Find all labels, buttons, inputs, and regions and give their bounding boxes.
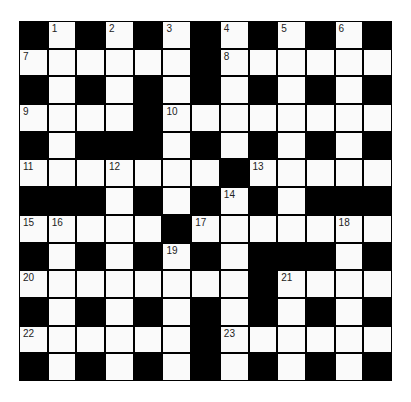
answer-cell[interactable]: 11 [20, 160, 47, 186]
answer-cell[interactable] [106, 50, 133, 76]
answer-cell[interactable]: 4 [221, 22, 248, 48]
answer-cell[interactable] [49, 50, 76, 76]
answer-cell[interactable] [77, 105, 104, 131]
answer-cell[interactable]: 21 [278, 271, 305, 297]
answer-cell[interactable] [336, 271, 363, 297]
answer-cell[interactable] [135, 271, 162, 297]
answer-cell[interactable] [106, 216, 133, 242]
answer-cell[interactable] [77, 327, 104, 353]
answer-cell[interactable] [163, 354, 190, 380]
answer-cell[interactable] [163, 77, 190, 103]
answer-cell[interactable]: 9 [20, 105, 47, 131]
answer-cell[interactable]: 18 [336, 216, 363, 242]
answer-cell[interactable] [278, 354, 305, 380]
answer-cell[interactable] [106, 354, 133, 380]
answer-cell[interactable] [307, 216, 334, 242]
answer-cell[interactable] [336, 50, 363, 76]
answer-cell[interactable]: 5 [278, 22, 305, 48]
answer-cell[interactable] [192, 105, 219, 131]
answer-cell[interactable] [163, 160, 190, 186]
answer-cell[interactable]: 19 [163, 244, 190, 270]
answer-cell[interactable] [106, 105, 133, 131]
answer-cell[interactable] [278, 50, 305, 76]
answer-cell[interactable] [49, 105, 76, 131]
answer-cell[interactable] [77, 50, 104, 76]
answer-cell[interactable] [278, 327, 305, 353]
answer-cell[interactable] [221, 271, 248, 297]
answer-cell[interactable] [135, 160, 162, 186]
answer-cell[interactable] [278, 77, 305, 103]
answer-cell[interactable] [364, 50, 391, 76]
answer-cell[interactable] [364, 271, 391, 297]
answer-cell[interactable] [163, 188, 190, 214]
answer-cell[interactable]: 20 [20, 271, 47, 297]
answer-cell[interactable]: 3 [163, 22, 190, 48]
answer-cell[interactable] [135, 50, 162, 76]
answer-cell[interactable]: 17 [192, 216, 219, 242]
answer-cell[interactable] [49, 327, 76, 353]
answer-cell[interactable] [49, 299, 76, 325]
answer-cell[interactable] [307, 105, 334, 131]
answer-cell[interactable]: 12 [106, 160, 133, 186]
answer-cell[interactable] [278, 105, 305, 131]
answer-cell[interactable] [163, 299, 190, 325]
answer-cell[interactable]: 7 [20, 50, 47, 76]
answer-cell[interactable] [49, 133, 76, 159]
answer-cell[interactable] [106, 299, 133, 325]
answer-cell[interactable] [135, 327, 162, 353]
answer-cell[interactable] [221, 105, 248, 131]
answer-cell[interactable]: 23 [221, 327, 248, 353]
answer-cell[interactable]: 22 [20, 327, 47, 353]
answer-cell[interactable]: 1 [49, 22, 76, 48]
answer-cell[interactable] [278, 188, 305, 214]
answer-cell[interactable] [163, 133, 190, 159]
answer-cell[interactable]: 10 [163, 105, 190, 131]
answer-cell[interactable] [106, 244, 133, 270]
answer-cell[interactable] [278, 299, 305, 325]
answer-cell[interactable] [192, 160, 219, 186]
answer-cell[interactable] [278, 160, 305, 186]
answer-cell[interactable]: 2 [106, 22, 133, 48]
answer-cell[interactable] [336, 160, 363, 186]
answer-cell[interactable] [163, 50, 190, 76]
answer-cell[interactable] [221, 244, 248, 270]
answer-cell[interactable] [278, 133, 305, 159]
answer-cell[interactable]: 8 [221, 50, 248, 76]
answer-cell[interactable]: 6 [336, 22, 363, 48]
answer-cell[interactable] [77, 160, 104, 186]
answer-cell[interactable] [135, 216, 162, 242]
answer-cell[interactable] [307, 160, 334, 186]
answer-cell[interactable] [106, 327, 133, 353]
answer-cell[interactable] [364, 327, 391, 353]
answer-cell[interactable] [364, 105, 391, 131]
answer-cell[interactable] [364, 216, 391, 242]
answer-cell[interactable] [336, 354, 363, 380]
answer-cell[interactable] [250, 216, 277, 242]
answer-cell[interactable] [221, 77, 248, 103]
answer-cell[interactable] [221, 133, 248, 159]
answer-cell[interactable]: 13 [250, 160, 277, 186]
answer-cell[interactable] [336, 77, 363, 103]
answer-cell[interactable] [336, 327, 363, 353]
answer-cell[interactable] [364, 160, 391, 186]
answer-cell[interactable] [106, 188, 133, 214]
answer-cell[interactable] [307, 50, 334, 76]
answer-cell[interactable] [192, 271, 219, 297]
answer-cell[interactable] [163, 271, 190, 297]
answer-cell[interactable]: 15 [20, 216, 47, 242]
answer-cell[interactable] [336, 244, 363, 270]
answer-cell[interactable] [49, 160, 76, 186]
answer-cell[interactable] [336, 105, 363, 131]
answer-cell[interactable] [49, 354, 76, 380]
answer-cell[interactable] [250, 105, 277, 131]
answer-cell[interactable] [49, 244, 76, 270]
answer-cell[interactable] [336, 299, 363, 325]
answer-cell[interactable] [336, 133, 363, 159]
answer-cell[interactable] [163, 327, 190, 353]
answer-cell[interactable] [278, 216, 305, 242]
answer-cell[interactable] [77, 216, 104, 242]
answer-cell[interactable] [221, 216, 248, 242]
answer-cell[interactable]: 14 [221, 188, 248, 214]
answer-cell[interactable] [106, 271, 133, 297]
answer-cell[interactable]: 16 [49, 216, 76, 242]
